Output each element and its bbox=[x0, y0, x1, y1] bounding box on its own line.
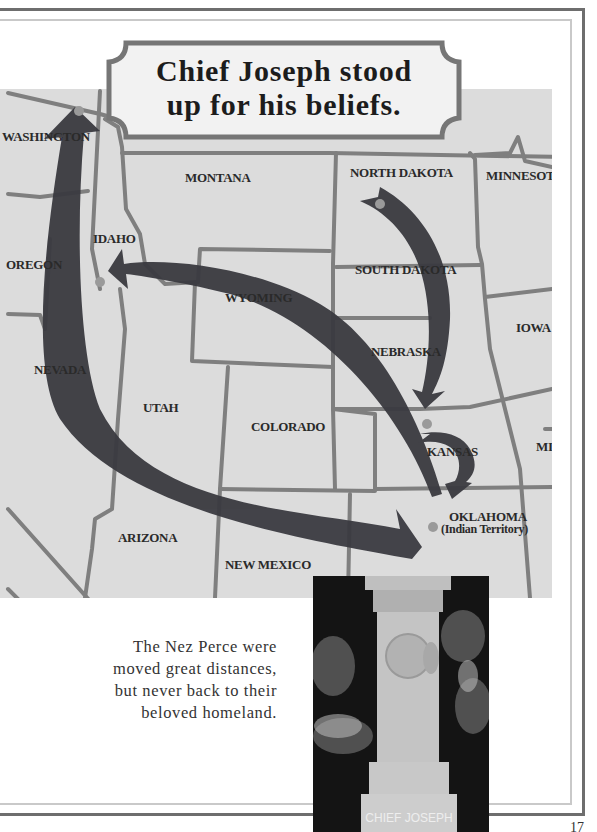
state-label-oregon: OREGON bbox=[6, 257, 62, 273]
monument-inscription: CHIEF JOSEPH bbox=[365, 811, 452, 825]
title-line-1: Chief Joseph stood bbox=[106, 54, 462, 88]
caption: The Nez Perce were moved great distances… bbox=[100, 636, 277, 724]
state-label-idaho: IDAHO bbox=[93, 231, 136, 247]
state-label-montana: MONTANA bbox=[185, 170, 251, 186]
caption-line-1: The Nez Perce were bbox=[100, 636, 277, 658]
state-label-washington: WASHINGTON bbox=[2, 129, 90, 145]
monument-photo: CHIEF JOSEPH bbox=[313, 576, 489, 832]
state-label-wyoming: WYOMING bbox=[225, 290, 292, 306]
title-line-2: up for his beliefs. bbox=[106, 88, 462, 122]
state-label-kansas: KANSAS bbox=[427, 444, 478, 460]
state-label-new-mexico: NEW MEXICO bbox=[225, 557, 311, 573]
state-label-minnesota: MINNESOTA bbox=[486, 168, 552, 184]
state-label-arizona: ARIZONA bbox=[118, 530, 177, 546]
caption-line-2: moved great distances, bbox=[100, 658, 277, 680]
title-plaque: Chief Joseph stood up for his beliefs. bbox=[106, 40, 462, 140]
page-number: 17 bbox=[570, 820, 584, 832]
monument-illustration: CHIEF JOSEPH bbox=[313, 576, 489, 832]
state-label-north-dakota: NORTH DAKOTA bbox=[350, 165, 453, 181]
state-label-missouri: MI bbox=[536, 439, 552, 455]
page-title: Chief Joseph stood up for his beliefs. bbox=[106, 54, 462, 122]
state-label-iowa: IOWA bbox=[516, 320, 551, 336]
state-label-nevada: NEVADA bbox=[34, 362, 86, 378]
caption-line-4: beloved homeland. bbox=[100, 702, 277, 724]
caption-line-3: but never back to their bbox=[100, 680, 277, 702]
state-label-indian-territory: (Indian Territory) bbox=[441, 522, 528, 537]
state-label-south-dakota: SOUTH DAKOTA bbox=[355, 262, 456, 278]
state-label-nebraska: NEBRASKA bbox=[371, 344, 441, 360]
state-label-colorado: COLORADO bbox=[251, 419, 325, 435]
map: WASHINGTON MONTANA NORTH DAKOTA MINNESOT… bbox=[0, 89, 552, 598]
state-label-utah: UTAH bbox=[143, 400, 178, 416]
